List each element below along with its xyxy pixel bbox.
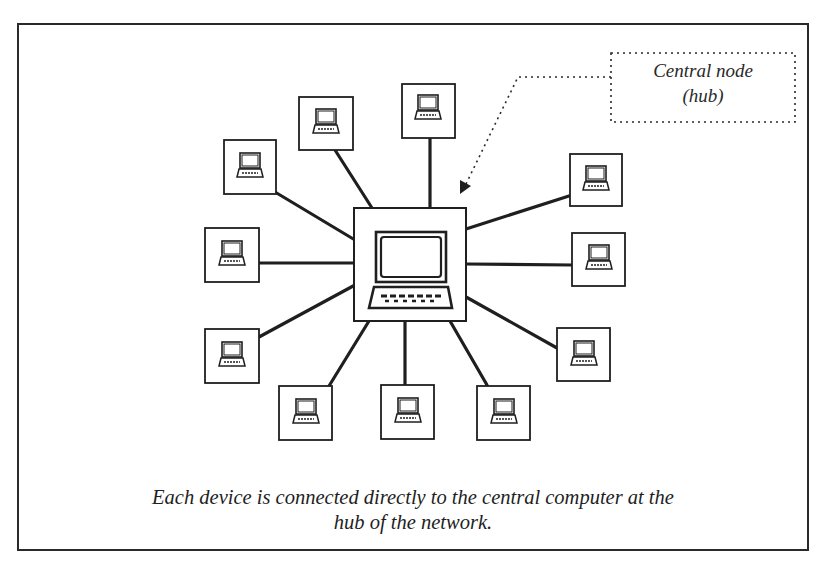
node-upper-right: [570, 154, 622, 206]
link-upper-left: [275, 192, 355, 240]
callout-title: Central node: [612, 58, 794, 83]
link-upper-right: [466, 196, 569, 229]
node-top: [402, 84, 455, 138]
node-left: [205, 228, 259, 282]
link-top-left: [335, 150, 372, 208]
caption-line-1: Each device is connected directly to the…: [17, 485, 809, 510]
node-upper-left: [224, 140, 276, 194]
callout-arrowhead-icon: [460, 180, 471, 194]
central-hub: [354, 208, 466, 321]
node-top-left: [299, 97, 353, 150]
callout-label: Central node (hub): [612, 58, 794, 108]
figure-caption: Each device is connected directly to the…: [17, 485, 809, 535]
caption-line-2: hub of the network.: [17, 510, 809, 535]
node-lower-left: [205, 329, 259, 383]
node-bottom-right: [477, 386, 530, 440]
node-right: [572, 233, 625, 286]
node-bottom: [381, 385, 434, 439]
link-right: [466, 264, 572, 265]
callout-subtitle: (hub): [612, 83, 794, 108]
link-lower-right: [466, 297, 557, 348]
node-lower-right: [557, 328, 610, 381]
link-bottom-left: [329, 321, 369, 386]
node-bottom-left: [279, 386, 332, 440]
link-lower-left: [259, 285, 355, 337]
link-bottom-right: [450, 321, 487, 385]
